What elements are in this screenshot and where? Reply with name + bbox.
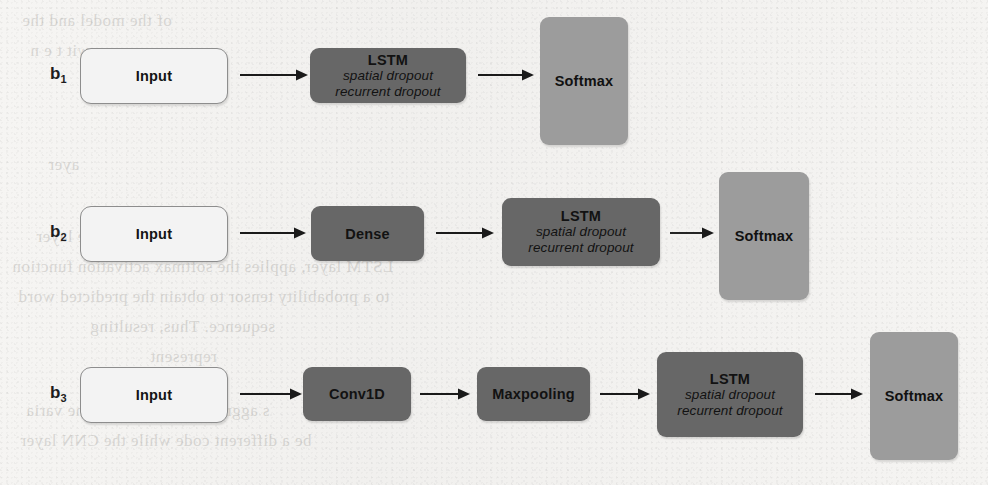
node-b3-conv1d[interactable]: Conv1D bbox=[303, 367, 411, 421]
arrow-b1-lstm-to-softmax bbox=[478, 68, 534, 82]
row-label-b3-letter: b bbox=[50, 383, 60, 402]
node-b2-lstm[interactable]: LSTM spatial dropout recurrent dropout bbox=[502, 198, 660, 266]
node-b3-lstm[interactable]: LSTM spatial dropout recurrent dropout bbox=[657, 352, 803, 437]
node-title: LSTM bbox=[710, 371, 750, 387]
row-label-b1-index: 1 bbox=[60, 73, 66, 85]
node-b3-maxpooling[interactable]: Maxpooling bbox=[477, 367, 590, 421]
row-label-b2: b2 bbox=[50, 222, 67, 243]
node-b2-input[interactable]: Input bbox=[80, 206, 228, 262]
node-subtitle-recurrent-dropout: recurrent dropout bbox=[677, 403, 782, 419]
node-subtitle-recurrent-dropout: recurrent dropout bbox=[528, 240, 633, 256]
row-label-b1: b1 bbox=[50, 64, 67, 85]
row-label-b2-index: 2 bbox=[60, 231, 66, 243]
node-subtitle-recurrent-dropout: recurrent dropout bbox=[335, 84, 440, 100]
row-label-b2-letter: b bbox=[50, 222, 60, 241]
arrow-b3-conv1d-to-maxpooling bbox=[420, 387, 470, 401]
node-subtitle-spatial-dropout: spatial dropout bbox=[536, 224, 626, 240]
arrow-b3-input-to-conv1d bbox=[240, 387, 302, 401]
arrow-b2-dense-to-lstm bbox=[436, 226, 494, 240]
node-title: LSTM bbox=[561, 208, 601, 224]
arrow-b3-lstm-to-softmax bbox=[815, 387, 863, 401]
node-b1-input[interactable]: Input bbox=[80, 48, 228, 104]
node-b2-softmax[interactable]: Softmax bbox=[719, 172, 809, 300]
node-title: Softmax bbox=[735, 228, 794, 244]
node-title: Softmax bbox=[555, 73, 614, 89]
arrow-b1-input-to-lstm bbox=[240, 68, 308, 82]
node-title: Dense bbox=[345, 226, 390, 242]
node-title: LSTM bbox=[368, 52, 408, 68]
node-subtitle-spatial-dropout: spatial dropout bbox=[685, 387, 775, 403]
node-title: Maxpooling bbox=[492, 386, 575, 402]
arrow-b2-input-to-dense bbox=[240, 226, 306, 240]
row-label-b3: b3 bbox=[50, 383, 67, 404]
node-b3-softmax[interactable]: Softmax bbox=[870, 332, 958, 460]
figure-page: of the model and the er ayer wit t e n u… bbox=[0, 0, 988, 485]
row-label-b3-index: 3 bbox=[60, 392, 66, 404]
architecture-diagram: b1 Input LSTM spatial dropout recurrent … bbox=[0, 0, 988, 485]
node-title: Softmax bbox=[885, 388, 944, 404]
node-title: Input bbox=[136, 68, 172, 84]
node-title: Input bbox=[136, 387, 172, 403]
node-b1-softmax[interactable]: Softmax bbox=[540, 17, 628, 145]
row-label-b1-letter: b bbox=[50, 64, 60, 83]
arrow-b2-lstm-to-softmax bbox=[670, 226, 714, 240]
node-title: Input bbox=[136, 226, 172, 242]
node-b3-input[interactable]: Input bbox=[80, 367, 228, 423]
node-subtitle-spatial-dropout: spatial dropout bbox=[343, 68, 433, 84]
node-title: Conv1D bbox=[329, 386, 385, 402]
arrow-b3-maxpooling-to-lstm bbox=[600, 387, 650, 401]
node-b1-lstm[interactable]: LSTM spatial dropout recurrent dropout bbox=[310, 48, 466, 103]
node-b2-dense[interactable]: Dense bbox=[311, 206, 424, 261]
